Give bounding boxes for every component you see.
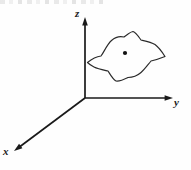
x-axis-label: x <box>3 146 9 157</box>
y-axis-arrowhead <box>165 95 173 101</box>
y-axis-label: y <box>174 97 179 108</box>
x-axis-line <box>18 98 85 148</box>
diagram-svg <box>0 0 191 170</box>
marked-point <box>123 51 127 55</box>
closed-surface-patch <box>88 32 166 82</box>
y-axis <box>85 95 173 101</box>
z-axis-arrowhead <box>82 17 88 25</box>
z-axis <box>82 17 88 98</box>
z-axis-label: z <box>75 8 79 19</box>
x-axis <box>14 98 85 151</box>
figure-canvas: z y x <box>0 0 191 170</box>
